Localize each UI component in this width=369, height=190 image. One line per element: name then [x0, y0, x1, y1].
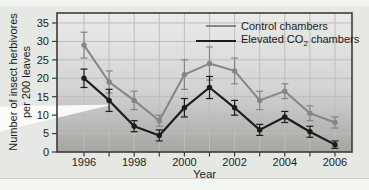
figure-canvas: 05101520253035199619982000200220042006 N…: [0, 0, 369, 190]
y-tick-label: 35: [37, 17, 49, 29]
elevated-data-point: [132, 124, 137, 129]
elevated-data-point: [182, 105, 187, 110]
control-data-point: [207, 61, 212, 66]
control-data-point: [307, 111, 312, 116]
x-tick-label: 2006: [323, 156, 347, 168]
y-tick-label: 0: [43, 146, 49, 158]
y-tick-label: 10: [37, 109, 49, 121]
control-data-point: [106, 79, 111, 84]
legend-item-elevated: Elevated CO2 chambers: [196, 33, 359, 48]
x-tick-label: 2000: [172, 156, 196, 168]
page-background-bottom: [0, 178, 369, 190]
elevated-data-point: [157, 133, 162, 138]
elevated-line-swatch: [196, 40, 236, 42]
y-tick-label: 5: [43, 127, 49, 139]
legend-label-control: Control chambers: [241, 20, 328, 32]
x-tick-label: 1998: [122, 156, 146, 168]
control-data-point: [232, 68, 237, 73]
y-tick-label: 25: [37, 54, 49, 66]
x-tick-label: 2002: [222, 156, 246, 168]
elevated-data-point: [307, 129, 312, 134]
y-axis-label: Number of insect herbivores per 200 leav…: [7, 0, 33, 168]
elevated-data-point: [81, 76, 86, 81]
y-tick-label: 15: [37, 91, 49, 103]
elevated-data-point: [232, 105, 237, 110]
x-tick-label: 1996: [72, 156, 96, 168]
y-axis-label-line1: Number of insect herbivores: [7, 0, 20, 168]
x-tick-label: 2004: [273, 156, 297, 168]
control-data-point: [282, 88, 287, 93]
control-data-point: [157, 118, 162, 123]
y-axis-label-line2: per 200 leaves: [20, 0, 33, 168]
control-data-point: [132, 98, 137, 103]
y-tick-label: 30: [37, 35, 49, 47]
y-tick-label: 20: [37, 72, 49, 84]
legend-label-elevated: Elevated CO2 chambers: [241, 33, 359, 48]
control-line-swatch: [206, 25, 236, 27]
control-data-point: [257, 98, 262, 103]
elevated-data-point: [106, 98, 111, 103]
elevated-data-point: [207, 85, 212, 90]
legend: Control chambers Elevated CO2 chambers: [196, 18, 359, 48]
control-data-point: [182, 72, 187, 77]
legend-item-control: Control chambers: [196, 18, 359, 33]
control-data-point: [81, 42, 86, 47]
control-data-point: [332, 120, 337, 125]
elevated-data-point: [257, 127, 262, 132]
elevated-data-point: [282, 114, 287, 119]
elevated-data-point: [332, 142, 337, 147]
